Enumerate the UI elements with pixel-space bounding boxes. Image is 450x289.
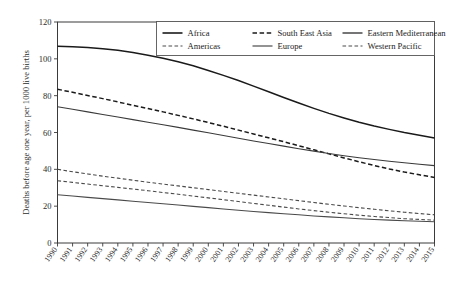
y-axis-tick-label: 120 <box>39 17 52 27</box>
x-axis-tick-label: 2008 <box>314 245 331 263</box>
x-axis-tick-label: 2001 <box>208 245 225 263</box>
x-axis-tick-label: 1995 <box>118 245 135 263</box>
legend-label: Western Pacific <box>368 41 422 51</box>
y-axis-tick-label: 100 <box>39 54 52 64</box>
x-axis-tick-label: 2013 <box>389 245 406 263</box>
x-axis-tick-label: 2002 <box>224 245 241 263</box>
x-axis-tick-label: 2010 <box>344 245 361 263</box>
x-axis-tick-label: 1994 <box>103 245 120 263</box>
legend-label: Africa <box>188 28 210 38</box>
x-axis-tick-label: 2004 <box>254 245 271 263</box>
x-axis-tick-label: 2014 <box>405 245 422 263</box>
legend-label: Eastern Mediterranean <box>368 28 447 38</box>
x-axis-tick-label: 2007 <box>299 245 316 263</box>
series-line-africa <box>58 46 435 138</box>
legend-label: Europe <box>278 41 303 51</box>
x-axis-tick-label: 1996 <box>133 245 150 263</box>
series-line-south-east-asia <box>58 89 435 177</box>
x-axis-tick-label: 1991 <box>58 245 75 263</box>
y-axis-tick-label: 80 <box>43 91 52 101</box>
series-line-europe <box>58 195 435 222</box>
x-axis-tick-label: 1990 <box>43 245 60 263</box>
series-line-eastern-mediterranean <box>58 107 435 166</box>
y-axis-tick-label: 20 <box>43 201 52 211</box>
line-chart: 0204060801001201990199119921993199419951… <box>0 0 450 289</box>
x-axis-tick-label: 2003 <box>239 245 256 263</box>
x-axis-tick-label: 1998 <box>163 245 180 263</box>
x-axis-tick-label: 1993 <box>88 245 105 263</box>
x-axis-tick-label: 2015 <box>420 245 437 263</box>
y-axis-tick-label: 40 <box>43 164 52 174</box>
series-line-americas <box>58 169 435 214</box>
x-axis-tick-label: 2000 <box>193 245 210 263</box>
series-line-western-pacific <box>58 181 435 220</box>
legend-label: Americas <box>188 41 222 51</box>
chart-canvas: 0204060801001201990199119921993199419951… <box>0 0 450 289</box>
legend-label: South East Asia <box>278 28 333 38</box>
x-axis-tick-label: 2006 <box>284 245 301 263</box>
y-axis-tick-label: 60 <box>43 128 52 138</box>
y-axis-title: Deaths before age one year, per 1000 liv… <box>21 50 31 215</box>
x-axis-tick-label: 1997 <box>148 245 165 263</box>
x-axis-tick-label: 1999 <box>178 245 195 263</box>
x-axis-tick-label: 2011 <box>359 245 375 263</box>
x-axis-tick-label: 1992 <box>73 245 90 263</box>
x-axis-tick-label: 2009 <box>329 245 346 263</box>
x-axis-tick-label: 2012 <box>374 245 391 263</box>
x-axis-tick-label: 2005 <box>269 245 286 263</box>
